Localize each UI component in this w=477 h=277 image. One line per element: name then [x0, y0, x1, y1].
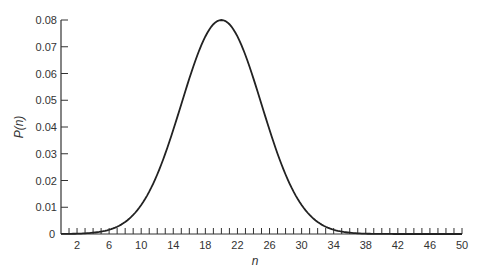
x-tick-label: 26 [263, 239, 275, 251]
y-tick-label: 0.04 [36, 121, 57, 133]
x-tick-label: 30 [295, 239, 307, 251]
x-tick-label: 34 [328, 239, 340, 251]
chart: 00.010.020.030.040.050.060.070.08 261014… [0, 0, 477, 277]
x-tick-label: 22 [231, 239, 243, 251]
y-tick-label: 0.01 [36, 201, 57, 213]
x-tick-label: 50 [456, 239, 468, 251]
distribution-curve [61, 20, 462, 234]
y-tick-label: 0.05 [36, 94, 57, 106]
y-axis-label: P(n) [12, 116, 26, 139]
x-tick-label: 38 [360, 239, 372, 251]
y-axis-ticks: 00.010.020.030.040.050.060.070.08 [36, 14, 68, 240]
x-tick-label: 10 [135, 239, 147, 251]
x-tick-label: 14 [167, 239, 179, 251]
x-tick-label: 46 [424, 239, 436, 251]
y-tick-label: 0.06 [36, 68, 57, 80]
y-tick-label: 0.02 [36, 175, 57, 187]
x-axis-ticks: 261014182226303438424650 [69, 228, 468, 251]
x-axis-label: n [252, 254, 259, 268]
x-tick-label: 2 [74, 239, 80, 251]
y-tick-label: 0 [49, 228, 55, 240]
x-tick-label: 42 [392, 239, 404, 251]
y-tick-label: 0.03 [36, 148, 57, 160]
y-tick-label: 0.08 [36, 14, 57, 26]
y-tick-label: 0.07 [36, 41, 57, 53]
x-tick-label: 18 [199, 239, 211, 251]
x-tick-label: 6 [106, 239, 112, 251]
